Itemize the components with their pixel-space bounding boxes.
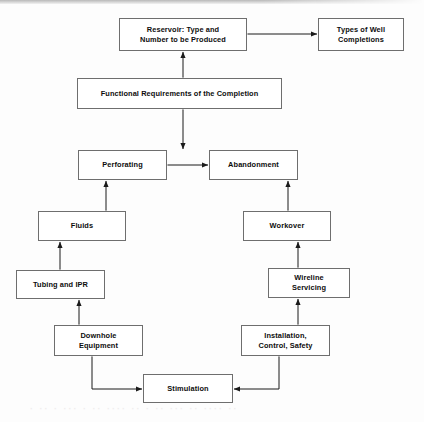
node-workover[interactable]: Workover — [243, 211, 331, 241]
node-well-completions[interactable]: Types of Well Completions — [318, 18, 404, 51]
edge-stimulation-downhole-equipment — [92, 357, 142, 389]
edge-stimulation-installation-control-safety — [234, 357, 279, 389]
scan-ghost-text: · ·· · ··· · ·· ···· ·· · ·· ··· ·· ····… — [30, 404, 400, 414]
node-reservoir[interactable]: Reservoir: Type and Number to be Produce… — [119, 18, 247, 51]
node-downhole-equipment[interactable]: Downhole Equipment — [54, 325, 143, 356]
node-functional-requirements[interactable]: Functional Requirements of the Completio… — [77, 78, 282, 109]
node-fluids[interactable]: Fluids — [38, 211, 126, 241]
node-perforating[interactable]: Perforating — [78, 150, 167, 180]
node-tubing-and-ipr[interactable]: Tubing and IPR — [16, 270, 105, 299]
node-installation-control-safety[interactable]: Installation, Control, Safety — [241, 325, 330, 356]
node-wireline-servicing[interactable]: Wireline Servicing — [268, 268, 350, 298]
diagram-canvas: Types of Well Completions --> Reservoir … — [0, 0, 424, 422]
node-stimulation[interactable]: Stimulation — [143, 374, 233, 403]
node-abandonment[interactable]: Abandonment — [209, 150, 298, 180]
